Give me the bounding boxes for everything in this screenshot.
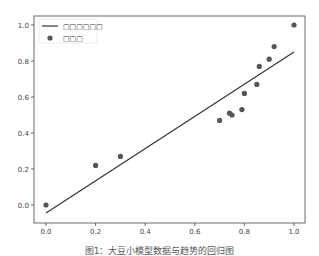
y-tick-label: 0.2 — [18, 166, 29, 174]
y-tick-label: 1.0 — [18, 22, 29, 30]
x-tick-label: 0.8 — [239, 228, 250, 236]
y-tick-label: 0.4 — [18, 130, 30, 138]
x-tick-label: 0.0 — [40, 228, 51, 236]
regression-line — [46, 52, 294, 213]
data-point — [242, 91, 247, 96]
x-axis-ticks: 0.00.20.40.60.81.0 — [40, 223, 299, 236]
axes-frame — [34, 16, 305, 223]
data-point — [254, 82, 259, 87]
y-tick-label: 0.6 — [18, 94, 30, 102]
data-point — [239, 107, 244, 112]
x-tick-label: 0.4 — [140, 228, 152, 236]
legend: □□□□□□ □□□ — [39, 19, 103, 43]
x-tick-label: 0.6 — [189, 228, 201, 236]
legend-point-icon — [47, 35, 52, 40]
x-tick-label: 1.0 — [288, 228, 299, 236]
data-point — [229, 112, 234, 117]
data-point — [267, 57, 272, 62]
legend-points-label: □□□ — [63, 35, 83, 43]
data-point — [272, 44, 277, 49]
data-point — [43, 202, 48, 207]
data-point — [118, 154, 123, 159]
legend-line-label: □□□□□□ — [63, 23, 103, 31]
regression-chart: 0.00.20.40.60.81.0 0.00.20.40.60.81.0 □□… — [0, 0, 319, 244]
figure-caption: 图1：大豆小模型数据与趋势的回归图 — [0, 244, 319, 256]
data-point — [291, 22, 296, 27]
data-point — [93, 163, 98, 168]
y-axis-ticks: 0.00.20.40.60.81.0 — [18, 22, 34, 210]
data-point — [217, 118, 222, 123]
data-point — [257, 64, 262, 69]
x-tick-label: 0.2 — [90, 228, 101, 236]
y-tick-label: 0.0 — [18, 202, 29, 210]
y-tick-label: 0.8 — [18, 58, 29, 66]
plot-area — [43, 22, 296, 213]
